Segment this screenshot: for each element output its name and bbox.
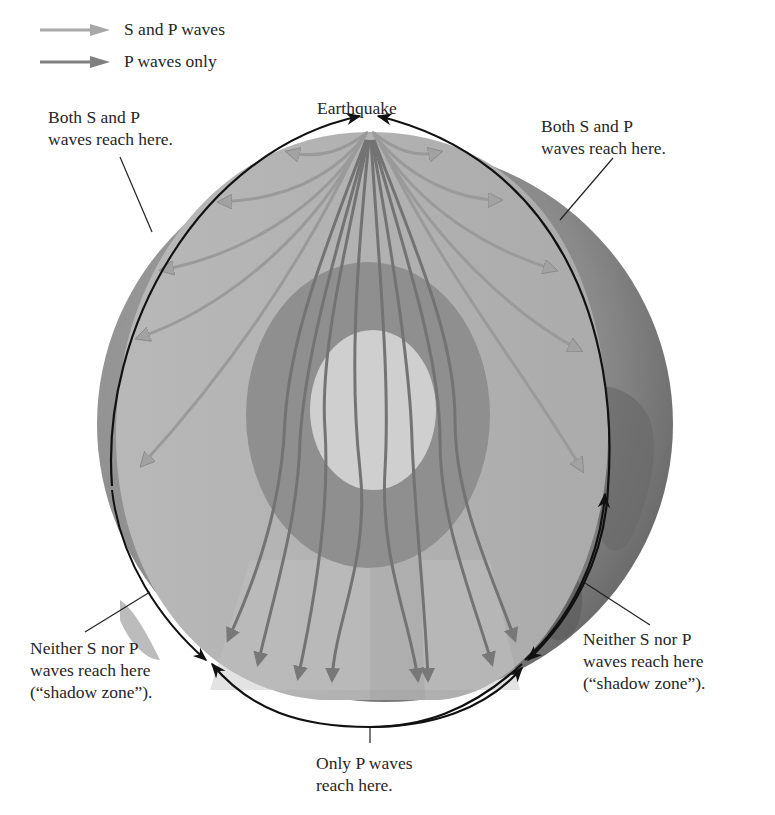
bottom-center-label: Only P waves reach here. xyxy=(316,752,413,796)
bottom-right-label: Neither S nor P waves reach here (“shado… xyxy=(583,628,705,694)
top-right-label: Both S and P waves reach here. xyxy=(541,115,666,159)
earthquake-label: Earthquake xyxy=(317,97,397,119)
top-left-label: Both S and P waves reach here. xyxy=(48,106,173,150)
bottom-left-label: Neither S nor P waves reach here (“shado… xyxy=(30,637,152,703)
earth-seismic-wave-diagram: S and P waves P waves only xyxy=(0,0,775,815)
